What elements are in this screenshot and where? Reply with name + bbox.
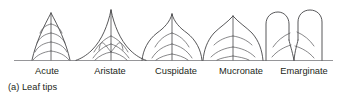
aristate-vein-l3: [95, 52, 111, 60]
emarginate-notch-right: [294, 40, 298, 60]
emarginate-vein-l1: [273, 33, 290, 47]
aristate-vein-r3: [111, 52, 127, 60]
cuspidate-vein-r2: [172, 44, 192, 58]
leaf-tip-label-emarginate: Emarginate: [280, 66, 328, 76]
leaf-tip-label-acute: Acute: [35, 66, 59, 76]
cuspidate-vein-l3: [156, 54, 172, 60]
leaf-tip-cuspidate: [142, 14, 202, 60]
aristate-vein-r1: [111, 36, 128, 52]
leaf-tip-aristate: [76, 10, 146, 60]
mucronate-vein-r1: [233, 36, 252, 45]
leaf-tip-label-mucronate: Mucronate: [219, 66, 263, 76]
mucronate-vein-l2: [211, 47, 233, 57]
mucronate-vein-l3: [217, 56, 233, 60]
leaf-tips-diagram: Acute Aristate Cuspidate Mucronate Emarg…: [0, 0, 345, 96]
emarginate-vein-r1: [297, 32, 314, 46]
mucronate-vein-l1: [214, 36, 233, 45]
leaf-tip-acute: [32, 13, 70, 60]
leaf-tip-mucronate: [203, 16, 263, 60]
cuspidate-vein-r3: [172, 54, 188, 60]
emarginate-outline-right-lobe: [298, 10, 322, 60]
emarginate-vein-r2: [295, 46, 314, 58]
aristate-outline-right: [111, 10, 146, 60]
acute-outline-right: [51, 13, 70, 60]
aristate-outline-left: [76, 10, 111, 60]
aristate-vein-l1: [94, 36, 111, 52]
mucronate-outline-right: [233, 16, 263, 60]
acute-outline-left: [32, 13, 51, 60]
mucronate-vein-r3: [233, 56, 249, 60]
leaf-tip-label-aristate: Aristate: [94, 66, 126, 76]
cuspidate-outline-right: [172, 14, 202, 60]
acute-vein-l4: [33, 51, 51, 60]
emarginate-vein-l2: [272, 45, 291, 57]
mucronate-vein-r2: [233, 47, 255, 57]
aristate-vein-inner-l: [99, 43, 111, 52]
leaf-tip-emarginate: [266, 10, 322, 60]
cuspidate-outline-left: [142, 14, 172, 60]
emarginate-notch-left: [289, 40, 294, 60]
cuspidate-vein-l2: [152, 44, 172, 58]
mucronate-outline-left: [203, 16, 233, 60]
leaf-tip-label-cuspidate: Cuspidate: [155, 66, 197, 76]
leaf-tips-figure: Acute Aristate Cuspidate Mucronate Emarg…: [0, 0, 345, 96]
aristate-vein-inner-r: [111, 43, 123, 52]
emarginate-outline-left-lobe: [266, 12, 289, 60]
figure-caption: (a) Leaf tips: [8, 82, 57, 92]
acute-vein-r4: [51, 51, 69, 60]
